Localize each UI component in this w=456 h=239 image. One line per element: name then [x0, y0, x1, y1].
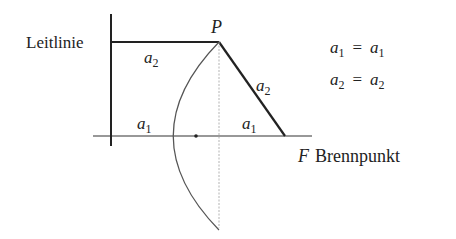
label-a1-left: a1 — [137, 114, 152, 136]
label-a1-right: a1 — [242, 114, 257, 136]
parabola-diagram: Leitlinie P a2 a2 a1 a1 FBrennpunkt a1=a… — [0, 0, 456, 239]
focus-label: FBrennpunkt — [297, 146, 400, 166]
label-a2-top: a2 — [144, 48, 159, 70]
midpoint-dot — [194, 134, 198, 138]
label-a2-slant: a2 — [256, 76, 271, 98]
point-p-label: P — [210, 17, 222, 37]
directrix-label: Leitlinie — [26, 33, 84, 52]
equation-a2: a2=a2 — [330, 70, 385, 92]
equation-a1: a1=a1 — [330, 38, 385, 60]
